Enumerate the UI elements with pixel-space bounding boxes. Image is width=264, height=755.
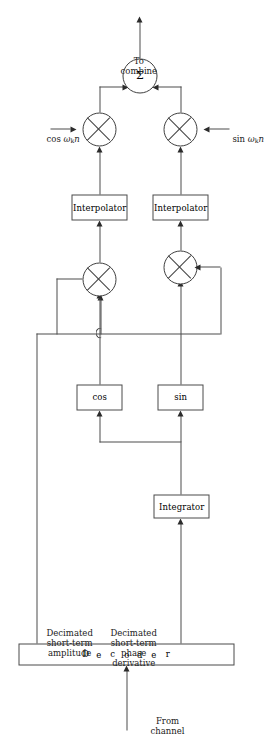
wire-multcos-to-interp [99,224,100,262]
wire-carriercos-to-sum [99,86,100,112]
wire-channel-to-decoder [126,668,127,730]
multiplier-carrier-sin[interactable] [163,112,197,146]
wire-amplitude-rise [36,333,100,334]
wire-integrator-split [99,441,181,442]
figure-frame: Fromchannel D e c o d e r Decimatedshort… [0,0,252,755]
interpolator-upper-block[interactable]: Interpolator [71,194,127,220]
wire-amplitude-run [36,333,37,643]
arrowhead-amp-into-multsin [194,264,200,270]
carrier-sin-label: sin ωkn [232,101,244,133]
integrator-block[interactable]: Integrator [153,494,209,518]
decimated-amplitude-label: Decimatedshort-termamplitude [46,581,76,627]
carrier-cos-label: cos ωkn [46,100,58,133]
decoder-letter: r [165,650,169,659]
wire-split-to-cos [99,414,100,442]
sin-label: sin [174,393,187,402]
arrowhead-into-interpolator-upper [96,220,102,226]
wire-carriercos-rise [99,86,124,87]
wire-amp-rail-to-multsin [220,267,221,334]
wire-multcos-up [56,278,82,279]
arrowhead-into-carrier-mult-cos [96,146,102,152]
interpolator-lower-block[interactable]: Interpolator [152,194,208,220]
wire-interp-lower-out [180,150,181,194]
interpolator-lower-label: Interpolator [153,203,206,212]
arrowhead-into-sin [177,410,183,416]
wire-multsin-to-interp [180,224,181,250]
wire-carriersin-drop [156,86,181,87]
cos-label: cos [92,393,107,402]
arrowhead-into-integrator [177,518,183,524]
wire-interp-upper-out [99,150,100,194]
arrowhead-carrier-sin-in [203,126,209,132]
integrator-label: Integrator [158,502,203,511]
interpolator-upper-label: Interpolator [72,203,125,212]
block-diagram-canvas: Fromchannel D e c o d e r Decimatedshort… [0,0,252,755]
sin-block[interactable]: sin [157,384,203,410]
wire-cos-out [99,296,100,384]
multiplier-carrier-cos[interactable] [82,112,116,146]
arrowhead-into-interpolator-lower [177,220,183,226]
wire-phase-to-integrator [180,521,181,643]
wire-carrier-sin-in [209,128,229,129]
to-combine-label: Tocombine [120,18,140,55]
cos-block[interactable]: cos [76,384,122,410]
wire-multcos-across [56,278,57,334]
arrowhead-into-cos [96,410,102,416]
wire-amp-rail-down [100,333,220,334]
wire-integrator-out [180,442,181,494]
multiplier-amplitude-sin[interactable] [163,250,197,284]
wire-carriersin-to-sum [180,86,181,112]
arrowhead-into-carrier-mult-sin [177,146,183,152]
wire-crossover-hop [95,327,101,338]
decoder-letter: e [96,650,101,659]
wire-split-to-sin [180,414,181,442]
multiplier-amplitude-cos[interactable] [82,262,116,296]
from-channel-label: Fromchannel [150,681,170,715]
arrowhead-carrier-cos-in [70,126,76,132]
decimated-phase-label: Decimatedshort-termphasederivative [110,581,150,627]
